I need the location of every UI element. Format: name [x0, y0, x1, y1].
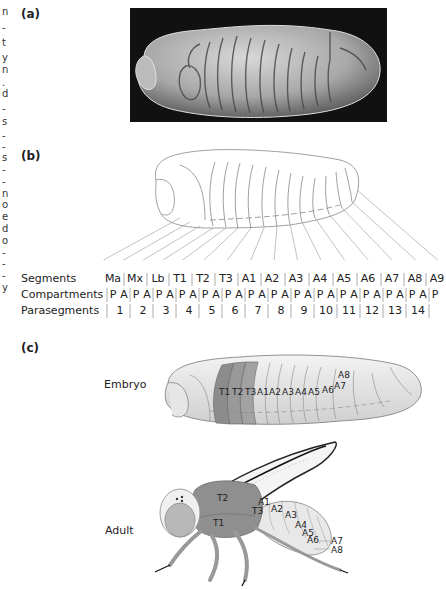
adult-label-T1: T1	[213, 518, 224, 528]
panel-a-label: (a)	[21, 7, 40, 21]
embryo-outline-drawing	[0, 140, 446, 260]
adult-label-T2: T2	[217, 493, 228, 503]
embryo-label-A7: A7	[334, 381, 346, 391]
embryo-label-A5: A5	[308, 387, 320, 397]
adult-fly-diagram	[150, 440, 350, 590]
fragment: -	[2, 103, 6, 114]
embryo-label-A2: A2	[269, 387, 281, 397]
embryo-label-T3: T3	[245, 387, 256, 397]
embryo-label-A1: A1	[257, 387, 269, 397]
segment-table-gridlines	[0, 270, 446, 320]
fragment: n	[2, 6, 8, 17]
adult-label-A2: A2	[271, 504, 283, 514]
adult-label-A3: A3	[285, 510, 297, 520]
fragment: t	[2, 37, 6, 48]
embryo-label-A4: A4	[295, 387, 307, 397]
adult-label-A1: A1	[258, 497, 270, 507]
embryo-label-A3: A3	[282, 387, 294, 397]
fragment: n	[2, 64, 8, 75]
embryo-label-T2: T2	[232, 387, 243, 397]
fragment: .	[2, 77, 5, 88]
panel-c-label: (c)	[21, 341, 39, 355]
embryo-label-A8: A8	[338, 370, 350, 380]
adult-label-A8: A8	[331, 545, 343, 555]
fragment: -	[2, 22, 6, 33]
fragment: s	[2, 116, 7, 127]
adult-caption: Adult	[105, 524, 134, 537]
adult-label-T3: T3	[252, 506, 263, 516]
embryo-caption: Embryo	[104, 378, 146, 391]
adult-label-A6: A6	[307, 535, 319, 545]
embryo-micrograph	[130, 8, 387, 122]
embryo-label-T1: T1	[219, 387, 230, 397]
fragment: y	[2, 52, 8, 63]
fragment: d	[2, 88, 8, 99]
embryo-label-A6: A6	[322, 385, 334, 395]
